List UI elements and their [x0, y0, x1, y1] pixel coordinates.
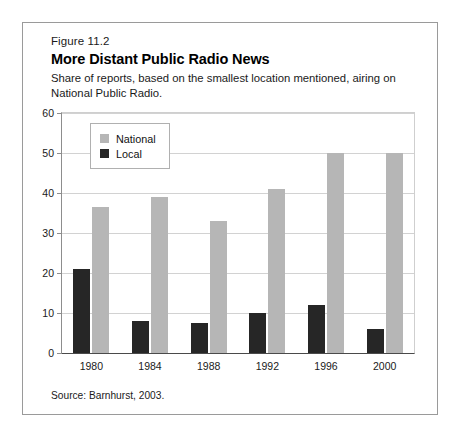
x-axis-label: 1996	[297, 360, 356, 372]
x-axis-label: 1992	[238, 360, 297, 372]
y-axis-label: 60	[42, 107, 54, 119]
bar-national	[386, 153, 403, 353]
bar-local	[73, 269, 90, 353]
chart-legend: NationalLocal	[90, 123, 170, 169]
bar-national	[92, 207, 109, 353]
x-axis-label: 1984	[121, 360, 180, 372]
bar-local	[132, 321, 149, 353]
x-axis-label: 2000	[355, 360, 414, 372]
y-axis-label: 0	[48, 347, 54, 359]
x-axis-label: 1988	[179, 360, 238, 372]
bar-group: 2000	[355, 113, 414, 353]
legend-item-national: National	[100, 131, 156, 146]
y-axis-label: 30	[42, 227, 54, 239]
bar-local	[308, 305, 325, 353]
figure-card: Figure 11.2 More Distant Public Radio Ne…	[22, 22, 438, 415]
bar-group: 1992	[238, 113, 297, 353]
y-axis-tick	[57, 353, 62, 354]
source-note: Source: Barnhurst, 2003.	[51, 390, 164, 401]
legend-swatch-icon	[100, 134, 109, 143]
x-axis-label: 1980	[62, 360, 121, 372]
bar-group: 1988	[179, 113, 238, 353]
figure-subtitle: Share of reports, based on the smallest …	[51, 71, 413, 100]
bar-local	[367, 329, 384, 353]
legend-swatch-icon	[100, 149, 109, 158]
y-axis-label: 40	[42, 187, 54, 199]
bar-local	[249, 313, 266, 353]
bar-national	[268, 189, 285, 353]
bar-local	[191, 323, 208, 353]
figure-number: Figure 11.2	[51, 35, 109, 47]
bar-group: 1996	[297, 113, 356, 353]
legend-item-local: Local	[100, 146, 156, 161]
y-axis-label: 50	[42, 147, 54, 159]
figure-title: More Distant Public Radio News	[51, 51, 270, 67]
legend-label: Local	[116, 148, 142, 160]
bar-national	[327, 153, 344, 353]
y-axis-label: 10	[42, 307, 54, 319]
bar-national	[210, 221, 227, 353]
bar-national	[151, 197, 168, 353]
chart-plot-area: 0102030405060 198019841988199219962000 N…	[61, 112, 415, 354]
y-axis-label: 20	[42, 267, 54, 279]
legend-label: National	[116, 133, 156, 145]
